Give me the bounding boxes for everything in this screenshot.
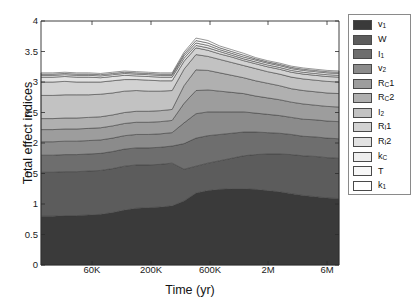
x-axis-title: Time (yr)	[40, 283, 340, 297]
legend-item[interactable]: RC1	[349, 76, 410, 91]
legend-item[interactable]: I2	[349, 106, 410, 121]
x-tick-label: 60K	[84, 265, 101, 275]
legend-label: W	[378, 35, 387, 44]
x-tick-label: 200K	[140, 265, 162, 275]
legend-swatch	[353, 108, 372, 118]
legend-swatch	[353, 20, 372, 30]
legend-label: k1	[378, 181, 386, 191]
x-axis-tick-labels: 60K200K600K2M6M	[0, 265, 415, 279]
legend-item[interactable]: RI2	[349, 135, 410, 150]
legend-item[interactable]: k1	[349, 179, 410, 194]
legend-swatch	[353, 122, 372, 132]
legend-swatch	[353, 64, 372, 74]
x-tick-label: 600K	[199, 265, 221, 275]
chart-figure: Total effect indices 00.511.522.533.54 6…	[0, 0, 415, 307]
x-tick-label: 6M	[320, 265, 333, 275]
legend-item[interactable]: v2	[349, 62, 410, 77]
legend-label: T	[378, 167, 384, 176]
legend-item[interactable]: I1	[349, 47, 410, 62]
legend-swatch	[353, 79, 372, 89]
legend-label: RC1	[378, 79, 394, 89]
legend-item[interactable]: W	[349, 33, 410, 48]
x-tick-label: 2M	[261, 265, 274, 275]
legend-swatch	[353, 181, 372, 191]
legend: v1WI1v2RC1RC2I2RI1RI2kCTk1	[348, 14, 411, 195]
legend-swatch	[353, 93, 372, 103]
legend-label: v2	[378, 64, 386, 74]
legend-swatch	[353, 137, 372, 147]
legend-item[interactable]: RI1	[349, 120, 410, 135]
legend-item[interactable]: v1	[349, 18, 410, 33]
legend-label: RI2	[378, 137, 391, 147]
legend-label: RI1	[378, 122, 391, 132]
legend-item[interactable]: RC2	[349, 91, 410, 106]
legend-label: v1	[378, 20, 386, 30]
legend-swatch	[353, 166, 372, 176]
legend-item[interactable]: kC	[349, 149, 410, 164]
legend-swatch	[353, 152, 372, 162]
legend-item[interactable]: T	[349, 164, 410, 179]
legend-label: kC	[378, 152, 387, 162]
legend-label: RC2	[378, 93, 394, 103]
legend-label: I2	[378, 108, 384, 118]
legend-label: I1	[378, 50, 384, 60]
legend-swatch	[353, 35, 372, 45]
legend-swatch	[353, 49, 372, 59]
